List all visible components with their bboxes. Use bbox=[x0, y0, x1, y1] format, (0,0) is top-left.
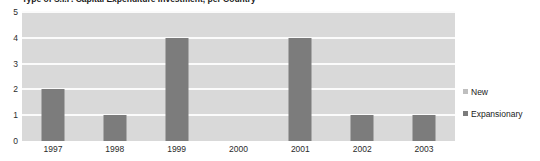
x-axis-tick-label: 1999 bbox=[146, 143, 208, 155]
bar-group bbox=[84, 12, 146, 141]
bar bbox=[165, 38, 188, 141]
legend-label: Expansionary bbox=[471, 109, 523, 119]
x-axis-tick-label: 2002 bbox=[331, 143, 393, 155]
legend-label: New bbox=[471, 87, 488, 97]
bar-group bbox=[208, 12, 270, 141]
bar bbox=[289, 38, 312, 141]
y-axis-tick-label: 3 bbox=[0, 59, 18, 68]
x-axis-tick-label: 1998 bbox=[84, 143, 146, 155]
bars-layer bbox=[22, 12, 455, 141]
x-axis-tick-label: 2001 bbox=[269, 143, 331, 155]
x-axis-tick-label: 2003 bbox=[393, 143, 455, 155]
y-axis-tick-label: 5 bbox=[0, 8, 18, 17]
bar-group bbox=[393, 12, 455, 141]
y-axis-tick-label: 2 bbox=[0, 85, 18, 94]
bar-group bbox=[331, 12, 393, 141]
bar-group bbox=[269, 12, 331, 141]
bar bbox=[103, 115, 126, 141]
x-axis-tick-label: 2000 bbox=[208, 143, 270, 155]
bar bbox=[351, 115, 374, 141]
y-axis-tick-label: 4 bbox=[0, 33, 18, 42]
y-axis-tick-label: 1 bbox=[0, 111, 18, 120]
legend-swatch-icon bbox=[463, 111, 468, 116]
bar bbox=[41, 89, 64, 141]
legend-swatch-icon bbox=[463, 89, 468, 94]
chart-legend: NewExpansionary bbox=[463, 84, 540, 128]
legend-item[interactable]: New bbox=[463, 84, 540, 99]
y-axis: 012345 bbox=[0, 12, 18, 141]
x-axis-tick-label: 1997 bbox=[22, 143, 84, 155]
legend-item[interactable]: Expansionary bbox=[463, 106, 540, 121]
bar-chart: Type of S.I.F. Capital Expenditure Inves… bbox=[0, 0, 540, 161]
y-axis-tick-label: 0 bbox=[0, 137, 18, 146]
x-axis: 1997199819992000200120022003 bbox=[22, 143, 455, 157]
bar bbox=[413, 115, 436, 141]
chart-title: Type of S.I.F. Capital Expenditure Inves… bbox=[22, 0, 452, 5]
bar-group bbox=[22, 12, 84, 141]
bar-group bbox=[146, 12, 208, 141]
plot-area bbox=[22, 12, 455, 141]
